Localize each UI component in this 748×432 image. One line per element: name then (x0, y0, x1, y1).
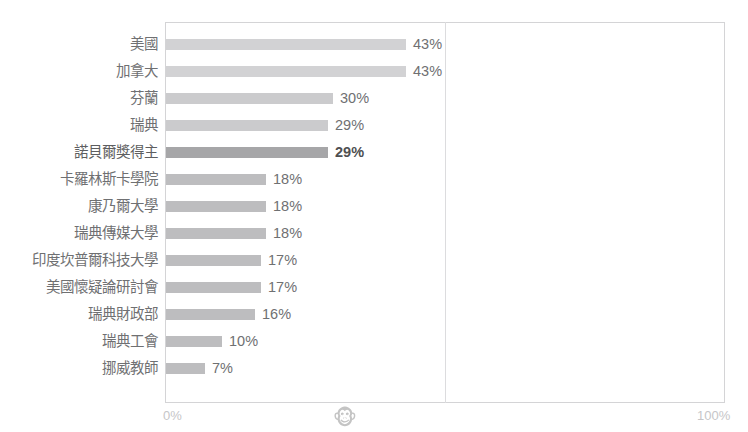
category-label: 印度坎普爾科技大學 (0, 247, 158, 274)
bar-rows: 美國43%加拿大43%芬蘭30%瑞典29%諾貝爾獎得主29%卡羅林斯卡學院18%… (0, 22, 748, 403)
category-label: 美國 (0, 31, 158, 58)
bar-value-label: 18% (273, 220, 302, 247)
bar-row: 芬蘭30% (0, 85, 748, 112)
bar (166, 309, 255, 320)
bar-track: 10% (166, 328, 724, 355)
category-label: 瑞典 (0, 112, 158, 139)
monkey-face-emoji-icon: 🐵 (330, 405, 360, 431)
bar-track: 43% (166, 31, 724, 58)
bar-value-label: 10% (229, 328, 258, 355)
chart-page: 美國43%加拿大43%芬蘭30%瑞典29%諾貝爾獎得主29%卡羅林斯卡學院18%… (0, 0, 748, 432)
bar (166, 336, 222, 347)
bar (166, 174, 266, 185)
bar-value-label: 7% (212, 355, 233, 382)
bar-row: 瑞典財政部16% (0, 301, 748, 328)
bar-track: 7% (166, 355, 724, 382)
category-label: 美國懷疑論研討會 (0, 274, 158, 301)
bar-value-label: 18% (273, 166, 302, 193)
horizontal-bar-chart: 美國43%加拿大43%芬蘭30%瑞典29%諾貝爾獎得主29%卡羅林斯卡學院18%… (0, 0, 748, 432)
x-axis: 0% 🐵 100% (0, 404, 748, 432)
bar (166, 255, 261, 266)
bar-row: 印度坎普爾科技大學17% (0, 247, 748, 274)
bar (166, 363, 205, 374)
bar-row: 瑞典傳媒大學18% (0, 220, 748, 247)
x-tick-label-100: 100% (697, 408, 730, 423)
bar-row: 瑞典29% (0, 112, 748, 139)
category-label: 瑞典傳媒大學 (0, 220, 158, 247)
bar (166, 147, 328, 158)
bar-row: 美國43% (0, 31, 748, 58)
bar-track: 29% (166, 139, 724, 166)
bar-value-label: 43% (413, 58, 442, 85)
bar-track: 43% (166, 58, 724, 85)
category-label: 諾貝爾獎得主 (0, 139, 158, 166)
bar-value-label: 29% (335, 139, 364, 166)
bar (166, 228, 266, 239)
bar-track: 17% (166, 274, 724, 301)
bar (166, 120, 328, 131)
category-label: 卡羅林斯卡學院 (0, 166, 158, 193)
bar-track: 16% (166, 301, 724, 328)
bar (166, 39, 406, 50)
category-label: 加拿大 (0, 58, 158, 85)
bar (166, 201, 266, 212)
bar-row: 卡羅林斯卡學院18% (0, 166, 748, 193)
bar-track: 18% (166, 220, 724, 247)
bar-track: 18% (166, 166, 724, 193)
bar (166, 282, 261, 293)
bar-value-label: 18% (273, 193, 302, 220)
bar-track: 29% (166, 112, 724, 139)
category-label: 瑞典財政部 (0, 301, 158, 328)
bar (166, 66, 406, 77)
bar-value-label: 17% (268, 247, 297, 274)
bar (166, 93, 333, 104)
bar-value-label: 30% (340, 85, 369, 112)
category-label: 康乃爾大學 (0, 193, 158, 220)
bar-row: 美國懷疑論研討會17% (0, 274, 748, 301)
category-label: 芬蘭 (0, 85, 158, 112)
bar-value-label: 29% (335, 112, 364, 139)
category-label: 瑞典工會 (0, 328, 158, 355)
bar-track: 17% (166, 247, 724, 274)
bar-value-label: 16% (262, 301, 291, 328)
category-label: 挪威教師 (0, 355, 158, 382)
bar-value-label: 43% (413, 31, 442, 58)
bar-row: 瑞典工會10% (0, 328, 748, 355)
bar-row: 康乃爾大學18% (0, 193, 748, 220)
x-tick-label-0: 0% (163, 408, 182, 423)
bar-row: 挪威教師7% (0, 355, 748, 382)
bar-row: 加拿大43% (0, 58, 748, 85)
bar-track: 30% (166, 85, 724, 112)
bar-value-label: 17% (268, 274, 297, 301)
bar-row: 諾貝爾獎得主29% (0, 139, 748, 166)
bar-track: 18% (166, 193, 724, 220)
